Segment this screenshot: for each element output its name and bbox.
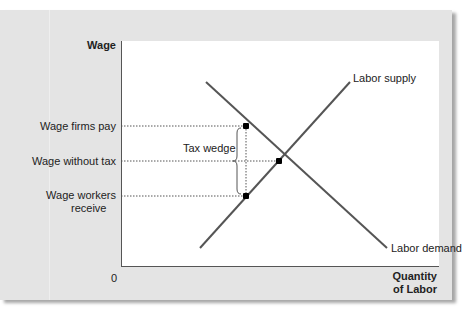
- y-axis-label: Wage: [87, 39, 116, 51]
- origin-label: 0: [111, 272, 117, 284]
- label-wage-without-tax: Wage without tax: [32, 155, 116, 167]
- point-equilibrium: [276, 158, 282, 164]
- labor-demand-curve: [206, 82, 387, 248]
- tax-wedge-label: Tax wedge: [183, 142, 236, 154]
- x-axis-label-2: of Labor: [393, 283, 437, 295]
- label-wage-workers-receive-2: receive: [71, 202, 106, 214]
- labor-supply-label: Labor supply: [353, 72, 416, 84]
- point-firms-pay: [243, 123, 249, 129]
- labor-supply-curve: [200, 82, 350, 248]
- labor-demand-label: Labor demand: [391, 242, 462, 254]
- point-workers-receive: [243, 193, 249, 199]
- tax-wedge-brace: [233, 128, 241, 194]
- label-wage-firms-pay: Wage firms pay: [40, 120, 116, 132]
- x-axis-label-1: Quantity: [392, 270, 437, 282]
- label-wage-workers-receive-1: Wage workers: [46, 189, 116, 201]
